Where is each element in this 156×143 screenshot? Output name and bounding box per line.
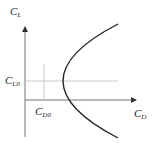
cd0-label: CD0 [35,105,51,119]
x-axis-label: CD [134,107,146,121]
drag-polar-diagram: CL CD CL0 CD0 [0,0,156,143]
y-axis-label: CL [10,5,21,19]
cl0-label: CL0 [5,74,20,88]
